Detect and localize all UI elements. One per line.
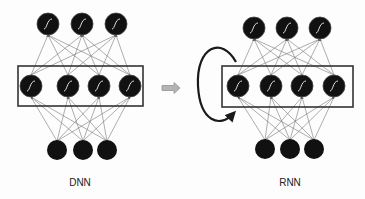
neuron-hidden bbox=[227, 75, 249, 97]
dnn-output-layer bbox=[37, 13, 127, 35]
neuron-hidden bbox=[260, 75, 282, 97]
neuron-output bbox=[276, 17, 298, 39]
neuron-input bbox=[73, 140, 93, 160]
neuron-input bbox=[280, 139, 300, 159]
dnn-hidden-output-edges bbox=[31, 35, 130, 75]
neuron-output bbox=[309, 17, 331, 39]
neuron-output bbox=[243, 17, 265, 39]
dnn-input-layer bbox=[47, 140, 117, 160]
neuron-input bbox=[255, 139, 275, 159]
neuron-output bbox=[71, 13, 93, 35]
dnn-panel bbox=[18, 13, 143, 160]
rnn-panel bbox=[198, 17, 353, 159]
neuron-hidden bbox=[119, 75, 141, 97]
neuron-hidden bbox=[57, 75, 79, 97]
neuron-output bbox=[37, 13, 59, 35]
rnn-input-hidden-edges bbox=[238, 97, 334, 140]
rnn-input-layer bbox=[255, 139, 324, 159]
dnn-input-hidden-edges bbox=[31, 97, 130, 141]
dnn-vs-rnn-diagram bbox=[0, 0, 365, 199]
dnn-hidden-layer bbox=[20, 75, 141, 97]
transition-arrow-icon bbox=[162, 83, 180, 94]
neuron-input bbox=[47, 140, 67, 160]
neuron-input bbox=[304, 139, 324, 159]
rnn-label: RNN bbox=[260, 177, 320, 188]
neuron-hidden bbox=[88, 75, 110, 97]
dnn-label: DNN bbox=[50, 177, 110, 188]
rnn-hidden-output-edges bbox=[238, 39, 334, 75]
neuron-hidden bbox=[20, 75, 42, 97]
neuron-hidden bbox=[323, 75, 345, 97]
rnn-output-layer bbox=[243, 17, 331, 39]
neuron-output bbox=[105, 13, 127, 35]
rnn-hidden-layer bbox=[227, 75, 345, 97]
neuron-input bbox=[97, 140, 117, 160]
neuron-hidden bbox=[291, 75, 313, 97]
